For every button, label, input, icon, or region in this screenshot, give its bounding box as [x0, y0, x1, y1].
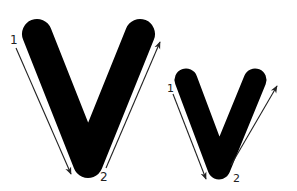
uppercase-stroke-2-label: 2: [100, 170, 108, 184]
uppercase-stroke-1-label: 1: [10, 33, 18, 47]
uppercase-v-group: 1 2: [10, 33, 160, 184]
lowercase-v-group: 1 2: [167, 80, 277, 185]
uppercase-v-glyph: [37, 34, 140, 163]
lowercase-stroke-1-label: 1: [167, 82, 174, 95]
lowercase-stroke-2-label: 2: [233, 172, 240, 185]
stroke-order-diagram: 1 2 1 2: [0, 0, 297, 191]
